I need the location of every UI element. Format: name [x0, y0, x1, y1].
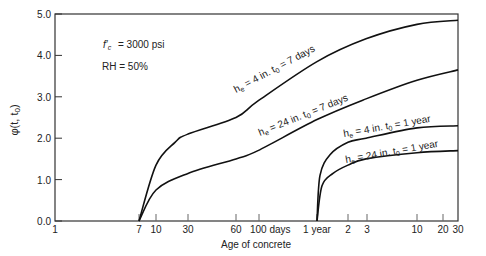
x-tick-label: 10	[411, 224, 423, 235]
y-axis: 0.01.02.03.04.05.0	[37, 9, 62, 227]
x-axis-label: Age of concrete	[221, 239, 291, 250]
annotation-fc: f′c = 3000 psi	[103, 39, 164, 51]
x-tick-label: 7	[136, 224, 142, 235]
x-tick-label: 30	[182, 224, 194, 235]
series-line-4	[317, 151, 458, 221]
y-tick-label: 3.0	[37, 92, 51, 103]
y-tick-label: 4.0	[37, 50, 51, 61]
svg-text:= 3000 psi: = 3000 psi	[118, 39, 164, 50]
y-tick-label: 5.0	[37, 9, 51, 20]
y-tick-label: 2.0	[37, 133, 51, 144]
label-series-3: he = 4 in. t0 = 1 year	[342, 113, 432, 140]
x-tick-label: 10	[150, 224, 162, 235]
x-tick-label: 60	[230, 224, 242, 235]
x-tick-label: 1	[52, 224, 58, 235]
x-axis: 17103060100 days1 year23102030	[52, 214, 464, 235]
label-series-2: he = 24 in. t0 = 7 days	[257, 92, 350, 139]
x-tick-label: 2	[345, 224, 351, 235]
x-tick-label: 3	[364, 224, 370, 235]
x-tick-label: 100 days	[250, 224, 291, 235]
creep-chart: 0.01.02.03.04.05.0 17103060100 days1 yea…	[0, 0, 486, 256]
y-tick-label: 0.0	[37, 216, 51, 227]
svg-text:f′c: f′c	[103, 39, 112, 51]
y-axis-label: φ(t, t0)	[8, 104, 22, 135]
x-tick-label: 1 year	[303, 224, 331, 235]
annotation-rh: RH = 50%	[102, 61, 148, 72]
x-tick-label: 20	[437, 224, 449, 235]
y-tick-label: 1.0	[37, 175, 51, 186]
x-tick-label: 30	[452, 224, 464, 235]
